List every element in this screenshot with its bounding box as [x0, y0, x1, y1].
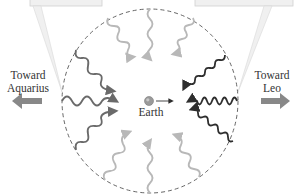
wave-left [62, 97, 116, 106]
wave-lower-right [192, 109, 233, 142]
wave-bottom [148, 141, 153, 193]
label-toward-leo-line2: Leo [250, 82, 294, 95]
label-toward-leo-line1: Toward [250, 69, 294, 82]
label-toward-aquarius-line1: Toward [2, 69, 54, 82]
wave-bottom-right [175, 135, 200, 177]
label-toward-aquarius: Toward Aquarius [2, 69, 54, 95]
label-toward-leo: Toward Leo [250, 69, 294, 95]
arrow-toward-leo-icon [261, 93, 290, 109]
wave-bottom-left [104, 132, 129, 180]
wave-top [148, 9, 153, 59]
arrow-toward-aquarius-icon [12, 93, 42, 109]
wave-upper-left [76, 50, 113, 91]
wave-upper-right [184, 55, 225, 88]
wave-top-right [174, 18, 194, 54]
wave-right [189, 98, 237, 105]
earth-icon [145, 97, 154, 106]
label-earth: Earth [133, 106, 169, 119]
cmb-dipole-diagram [0, 0, 300, 196]
wave-top-left [107, 18, 133, 57]
wave-lower-left [76, 111, 115, 150]
label-toward-aquarius-line2: Aquarius [2, 82, 54, 95]
